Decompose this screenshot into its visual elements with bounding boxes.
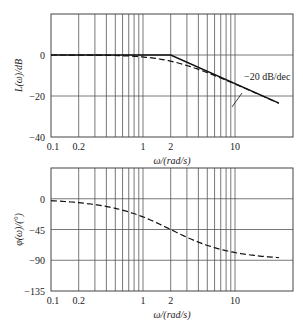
phase-plot: 0−45−90−1350.10.21210ω/(rad/s)φ(ω)/(°) bbox=[13, 168, 293, 321]
y-tick-label: −135 bbox=[24, 286, 45, 297]
y-tick-label: −40 bbox=[29, 132, 45, 143]
x-tick-label: 2 bbox=[168, 141, 173, 152]
y-tick-label: −90 bbox=[29, 255, 45, 266]
x-tick-label: 10 bbox=[230, 295, 240, 306]
slope-annotation: −20 dB/dec bbox=[244, 71, 291, 82]
bode-plot: 0−20−400.10.21210ω/(rad/s)L(ω)/dB−20 dB/… bbox=[0, 0, 303, 332]
x-axis-label: ω/(rad/s) bbox=[153, 309, 191, 321]
x-tick-label: 2 bbox=[168, 295, 173, 306]
annotation-leader bbox=[232, 93, 242, 107]
x-tick-label: 0.2 bbox=[72, 141, 85, 152]
x-axis-label: ω/(rad/s) bbox=[153, 155, 191, 167]
x-tick-label: 1 bbox=[141, 295, 146, 306]
x-tick-label: 10 bbox=[230, 141, 240, 152]
y-axis-label: φ(ω)/(°) bbox=[13, 212, 25, 245]
x-tick-label: 0.1 bbox=[47, 141, 60, 152]
x-tick-label: 1 bbox=[141, 141, 146, 152]
x-tick-label: 0.1 bbox=[47, 295, 60, 306]
y-tick-label: 0 bbox=[40, 194, 45, 205]
y-axis-label: L(ω)/dB bbox=[13, 59, 25, 93]
magnitude-plot: 0−20−400.10.21210ω/(rad/s)L(ω)/dB−20 dB/… bbox=[13, 14, 293, 167]
y-tick-label: −45 bbox=[29, 225, 45, 236]
x-tick-label: 0.2 bbox=[72, 295, 85, 306]
y-tick-label: 0 bbox=[40, 50, 45, 61]
y-tick-label: −20 bbox=[29, 91, 45, 102]
